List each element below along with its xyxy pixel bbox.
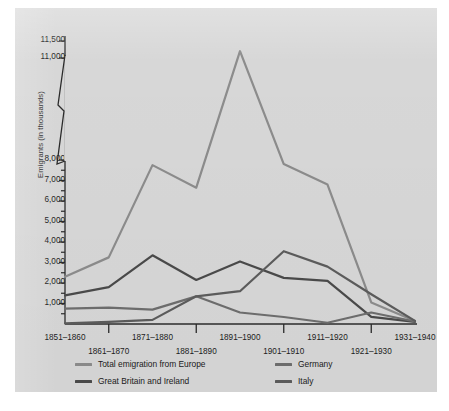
legend-item[interactable]: Germany — [275, 360, 332, 368]
x-axis-label: 1891–1900 — [210, 334, 270, 342]
x-axis-label: 1861–1870 — [79, 348, 139, 356]
legend-item[interactable]: Total emigration from Europe — [75, 360, 206, 368]
legend-color-swatch — [75, 363, 92, 366]
x-axis-label: 1881–1890 — [166, 348, 226, 356]
legend-label: Italy — [298, 377, 313, 385]
legend-color-swatch — [275, 380, 292, 383]
legend-item[interactable]: Italy — [275, 377, 313, 385]
chart-legend: Total emigration from EuropeGermanyGreat… — [75, 360, 425, 396]
legend-label: Total emigration from Europe — [98, 360, 206, 368]
y-axis-break-symbol — [57, 55, 65, 164]
x-axis-label: 1851–1860 — [35, 334, 95, 342]
legend-label: Great Britain and Ireland — [98, 377, 189, 385]
x-axis-label: 1871–1880 — [123, 334, 183, 342]
x-axis-label: 1931–1940 — [385, 334, 445, 342]
x-axis-label: 1901–1910 — [254, 348, 314, 356]
legend-color-swatch — [275, 363, 292, 366]
x-axis-label: 1921–1930 — [341, 348, 401, 356]
legend-label: Germany — [298, 360, 332, 368]
chart-figure: Emigrants (in thousands) 11,50011,0008,0… — [15, 8, 437, 392]
x-axis-label: 1911–1920 — [298, 334, 358, 342]
y-axis-break-gap — [64, 56, 66, 161]
legend-color-swatch — [75, 380, 92, 383]
legend-item[interactable]: Great Britain and Ireland — [75, 377, 189, 385]
